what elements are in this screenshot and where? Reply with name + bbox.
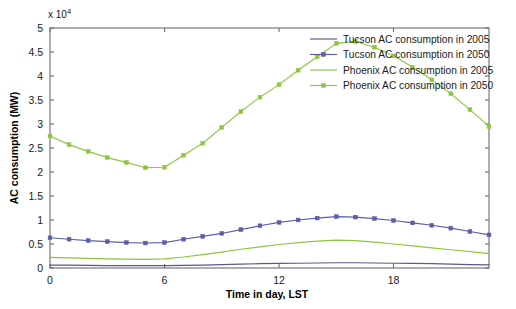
series-marker	[487, 125, 491, 129]
y-tick-label: 3.5	[28, 94, 43, 106]
line-chart: 00.511.522.533.544.55 061218 x 104 AC co…	[0, 0, 516, 309]
x-tick-label: 12	[273, 274, 285, 286]
chart-figure: 00.511.522.533.544.55 061218 x 104 AC co…	[0, 0, 516, 309]
legend-label: Tucson AC consumption in 2005	[343, 34, 490, 45]
legend-swatch-marker	[322, 84, 326, 88]
series-marker	[124, 241, 128, 245]
legend-label: Tucson AC consumption in 2050	[343, 49, 490, 60]
series-marker	[86, 149, 90, 153]
series-marker	[182, 237, 186, 241]
y-tick-label: 2	[37, 166, 43, 178]
series-marker	[468, 108, 472, 112]
series-marker	[48, 134, 52, 138]
y-tick-label: 4	[37, 70, 43, 82]
series-marker	[201, 234, 205, 238]
y-tick-label: 1	[37, 214, 43, 226]
series-marker	[48, 236, 52, 240]
y-tick-label: 0	[37, 262, 43, 274]
series-marker	[411, 221, 415, 225]
series-marker	[86, 239, 90, 243]
series-marker	[334, 215, 338, 219]
y-tick-label: 2.5	[28, 142, 43, 154]
y-tick-label: 5	[37, 22, 43, 34]
series-marker	[449, 92, 453, 96]
series-marker	[315, 216, 319, 220]
series-marker	[468, 230, 472, 234]
series-marker	[124, 161, 128, 165]
series-marker	[487, 233, 491, 237]
x-tick-label: 6	[162, 274, 168, 286]
series-marker	[258, 224, 262, 228]
series-marker	[430, 223, 434, 227]
series-marker	[277, 221, 281, 225]
series-marker	[144, 241, 148, 245]
y-tick-label: 1.5	[28, 190, 43, 202]
y-tick-label: 3	[37, 118, 43, 130]
series-marker	[220, 232, 224, 236]
y-tick-label: 0.5	[28, 238, 43, 250]
x-axis-title: Time in day, LST	[226, 288, 309, 300]
series-marker	[296, 68, 300, 72]
series-marker	[315, 55, 319, 59]
series-marker	[163, 241, 167, 245]
series-marker	[258, 95, 262, 99]
series-marker	[220, 125, 224, 129]
series-marker	[105, 240, 109, 244]
legend-label: Phoenix AC consumption in 2050	[343, 80, 493, 91]
series-marker	[182, 153, 186, 157]
series-marker	[67, 237, 71, 241]
x-tick-label: 0	[47, 274, 53, 286]
series-marker	[239, 110, 243, 114]
series-marker	[353, 215, 357, 219]
series-marker	[105, 156, 109, 160]
series-marker	[163, 165, 167, 169]
series-marker	[449, 226, 453, 230]
y-axis-title: AC consumption (MW)	[8, 92, 20, 205]
series-marker	[277, 83, 281, 87]
series-marker	[201, 141, 205, 145]
series-marker	[239, 228, 243, 232]
y-tick-label: 4.5	[28, 46, 43, 58]
series-marker	[67, 143, 71, 147]
series-marker	[296, 218, 300, 222]
series-marker	[144, 166, 148, 170]
series-marker	[392, 219, 396, 223]
legend-label: Phoenix AC consumption in 2005	[343, 65, 493, 76]
series-marker	[334, 41, 338, 45]
series-marker	[373, 217, 377, 221]
x-tick-label: 18	[388, 274, 400, 286]
legend-swatch-marker	[322, 53, 326, 57]
figure-background	[0, 0, 516, 309]
